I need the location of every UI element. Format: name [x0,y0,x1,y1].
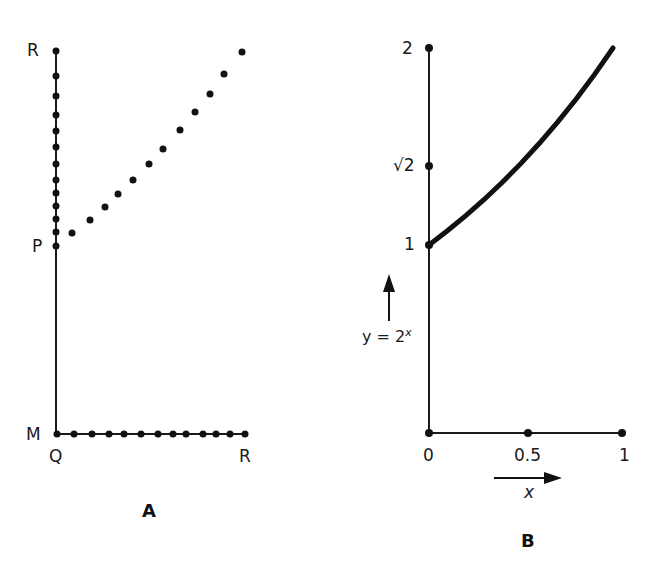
x-axis-label: x [524,484,534,501]
figure-canvas [0,0,652,576]
horizontal-dot [200,431,207,438]
diagonal-dot [221,71,228,78]
vertical-dot [53,128,60,135]
vertical-dot [53,177,60,184]
vertical-dot [53,73,60,80]
vertical-dot [53,144,60,151]
x-tick-label-0.5: 0.5 [514,447,541,464]
y-tick-label-sqrt2: √2 [393,157,415,174]
diagonal-dot [160,146,167,153]
panel-a-diagram [53,48,249,438]
horizontal-dot [89,431,96,438]
diagonal-dots [69,49,246,237]
panel-b-label: B [521,530,535,551]
vertical-dot [53,243,60,250]
horizontal-dot [170,431,177,438]
x-tick-1-dot [618,429,626,437]
vertical-dot [53,112,60,119]
label-p: P [32,238,42,255]
diagonal-dot [146,161,153,168]
y-tick-2-dot [425,44,433,52]
vertical-dot [53,203,60,210]
diagonal-dot [130,177,137,184]
horizontal-dot [213,431,220,438]
label-q: Q [49,448,62,465]
function-label: y = 2x [362,327,412,345]
y-tick-sqrt2-dot [425,162,433,170]
x-arrow-head-icon [544,472,562,484]
horizontal-dot [155,431,162,438]
x-tick-label-0: 0 [423,447,434,464]
panel-a-label: A [142,500,156,521]
horizontal-dot [227,431,234,438]
diagonal-dot [87,217,94,224]
vertical-dot [53,161,60,168]
vertical-dot [53,229,60,236]
diagonal-dot [207,91,214,98]
function-label-lhs: y = 2 [362,327,405,346]
y-arrow-head-icon [383,274,395,292]
diagonal-dot [102,204,109,211]
y-tick-label-1: 1 [404,236,415,253]
label-r-right: R [239,448,251,465]
x-tick-0-dot [425,429,433,437]
horizontal-dot [71,431,78,438]
horizontal-dot [138,431,145,438]
exponential-curve [429,48,613,245]
horizontal-dot [106,431,113,438]
horizontal-dot [183,431,190,438]
label-m: M [26,426,41,443]
diagonal-dot [177,127,184,134]
vertical-dot [53,216,60,223]
vertical-dot [53,190,60,197]
y-tick-label-2: 2 [402,40,413,57]
vertical-dots [53,48,60,250]
vertical-dot [53,93,60,100]
diagonal-dot [115,191,122,198]
function-label-exponent: x [405,326,412,339]
x-tick-0.5-dot [524,429,532,437]
diagonal-dot [69,230,76,237]
diagonal-dot [192,109,199,116]
horizontal-dot [242,431,249,438]
panel-b-graph [383,44,626,484]
vertical-dot [53,48,60,55]
horizontal-dot [121,431,128,438]
x-tick-label-1: 1 [619,447,630,464]
label-r-top: R [27,42,39,59]
diagonal-dot [239,49,246,56]
horizontal-dot [54,431,61,438]
